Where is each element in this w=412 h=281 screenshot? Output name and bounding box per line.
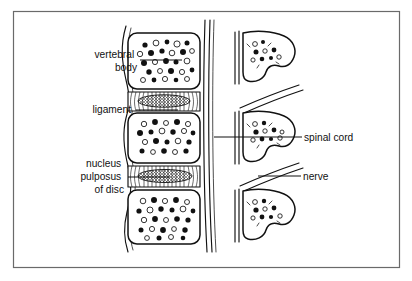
label-nucleus-line-1: nucleus xyxy=(86,158,121,169)
label-vertebral-body-line-2: body xyxy=(115,62,138,73)
label-spinal-cord-line-1: spinal cord xyxy=(304,132,354,143)
label-nerve-line-1: nerve xyxy=(303,171,329,182)
label-vertebral-body-line-1: vertebral xyxy=(95,49,135,60)
nucleus-pulposus-1 xyxy=(138,95,190,107)
label-ligament: ligament xyxy=(92,104,131,115)
vertebral-body-3 xyxy=(128,190,200,244)
annotation-layer: vertebral body ligament nucleus pulposus… xyxy=(80,49,353,195)
label-nerve: nerve xyxy=(303,171,329,182)
spine-diagram: vertebral body ligament nucleus pulposus… xyxy=(0,0,412,281)
vertebral-body-1 xyxy=(128,33,200,89)
label-nucleus-pulposus-of-disc: nucleus pulposus of disc xyxy=(80,158,124,195)
lamina-segment-1 xyxy=(235,31,295,84)
label-spinal-cord: spinal cord xyxy=(304,132,354,143)
figure-root: vertebral body ligament nucleus pulposus… xyxy=(0,0,412,281)
nucleus-pulposus-2 xyxy=(138,170,192,183)
intervertebral-disc-1 xyxy=(128,92,200,111)
nerve-root-1 xyxy=(240,85,303,113)
posterior-canal-wall xyxy=(204,20,216,252)
label-nucleus-line-3: of disc xyxy=(95,184,124,195)
vertebral-body-2 xyxy=(128,113,200,163)
label-nucleus-line-2: pulposus xyxy=(80,171,121,182)
nerve-root-2 xyxy=(240,163,303,191)
lamina-segment-3 xyxy=(235,189,295,242)
label-ligament-line-1: ligament xyxy=(92,104,131,115)
